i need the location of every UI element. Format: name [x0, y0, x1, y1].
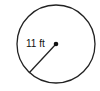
- radius-label: 11 ft: [26, 38, 45, 49]
- center-point: [54, 42, 59, 47]
- circle-diagram: [0, 0, 100, 91]
